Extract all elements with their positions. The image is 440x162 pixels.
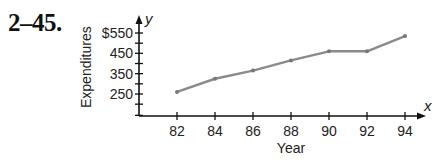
- x-tick-label: 86: [245, 123, 261, 139]
- line-chart: yx250350450$55082848688909294Expenditure…: [0, 0, 440, 162]
- data-point: [175, 90, 179, 94]
- x-axis-variable: x: [423, 97, 432, 114]
- data-point: [327, 49, 331, 53]
- data-point: [403, 34, 407, 38]
- data-line: [177, 36, 405, 92]
- y-tick-label: 450: [110, 45, 134, 61]
- x-tick-label: 92: [359, 123, 375, 139]
- x-tick-label: 94: [397, 123, 413, 139]
- x-axis-title: Year: [277, 140, 306, 156]
- x-tick-label: 84: [207, 123, 223, 139]
- data-point: [251, 69, 255, 73]
- y-tick-label: $550: [102, 25, 133, 41]
- data-point: [213, 77, 217, 81]
- x-tick-label: 82: [169, 123, 185, 139]
- y-axis-title: Expenditures: [78, 26, 94, 108]
- x-tick-label: 88: [283, 123, 299, 139]
- x-tick-label: 90: [321, 123, 337, 139]
- y-axis-variable: y: [144, 10, 154, 27]
- data-point: [289, 58, 293, 62]
- y-axis-arrow-icon: [136, 15, 143, 24]
- data-point: [365, 49, 369, 53]
- y-tick-label: 350: [110, 66, 134, 82]
- y-tick-label: 250: [110, 86, 134, 102]
